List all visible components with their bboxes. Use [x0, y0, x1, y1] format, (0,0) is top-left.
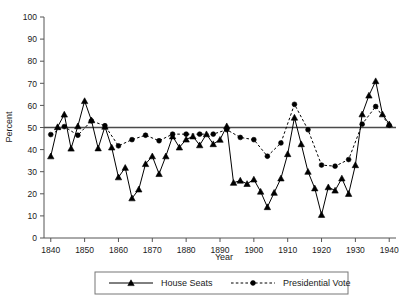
- chart-container: 0102030405060708090100 18401850186018701…: [0, 0, 403, 304]
- chart-plot-area: 0102030405060708090100 18401850186018701…: [0, 0, 403, 304]
- x-axis-tick-label: 1870: [143, 245, 162, 255]
- legend-item-label: House Seats: [161, 278, 213, 288]
- x-axis-tick-label: 1940: [380, 245, 399, 255]
- y-axis-title: Percent: [4, 111, 14, 143]
- x-axis-tick-label: 1840: [41, 245, 60, 255]
- data-point-marker-circle: [238, 135, 243, 140]
- y-axis-tick-label: 90: [28, 34, 38, 44]
- data-point-marker-circle: [170, 132, 175, 137]
- y-axis-tick-label: 60: [28, 101, 38, 111]
- data-point-marker-circle: [319, 163, 324, 168]
- x-axis-tick-label: 1930: [346, 245, 365, 255]
- y-axis-tick-label: 0: [32, 233, 37, 243]
- data-point-marker-circle: [89, 118, 94, 123]
- data-point-marker-circle: [143, 133, 148, 138]
- data-point-marker-circle: [387, 123, 392, 128]
- data-point-marker-circle: [279, 141, 284, 146]
- data-point-marker-circle: [62, 124, 67, 129]
- data-point-marker-circle: [292, 102, 297, 107]
- chart-legend: House SeatsPresidential Vote: [95, 272, 351, 294]
- data-point-marker-circle: [265, 154, 270, 159]
- y-axis-tick-label: 10: [28, 211, 38, 221]
- data-point-marker-circle: [333, 164, 338, 169]
- data-point-marker-circle: [211, 132, 216, 137]
- data-point-marker-circle: [373, 104, 378, 109]
- data-point-marker-circle: [130, 137, 135, 142]
- y-axis-tick-label: 50: [28, 123, 38, 133]
- data-point-marker-circle: [157, 138, 162, 143]
- data-point-marker-circle: [48, 132, 53, 137]
- x-axis-tick-label: 1910: [278, 245, 297, 255]
- x-axis-title: Year: [215, 252, 233, 262]
- y-axis-tick-label: 30: [28, 167, 38, 177]
- data-point-marker-circle: [346, 157, 351, 162]
- y-axis-tick-label: 40: [28, 145, 38, 155]
- data-point-marker-circle: [197, 132, 202, 137]
- data-point-marker-circle: [251, 281, 256, 286]
- legend-item-label: Presidential Vote: [283, 278, 351, 288]
- x-axis-tick-label: 1920: [312, 245, 331, 255]
- y-axis-tick-label: 80: [28, 56, 38, 66]
- x-axis-tick-label: 1900: [244, 245, 263, 255]
- y-axis-tick-label: 20: [28, 189, 38, 199]
- data-point-marker-circle: [103, 123, 108, 128]
- y-axis-tick-label: 100: [23, 12, 37, 22]
- x-axis-tick-label: 1850: [75, 245, 94, 255]
- data-point-marker-circle: [306, 127, 311, 132]
- data-point-marker-circle: [360, 122, 365, 127]
- x-axis-tick-label: 1880: [177, 245, 196, 255]
- data-point-marker-circle: [75, 133, 80, 138]
- data-point-marker-circle: [251, 137, 256, 142]
- x-axis-tick-label: 1860: [109, 245, 128, 255]
- data-point-marker-circle: [224, 127, 229, 132]
- data-point-marker-circle: [116, 143, 121, 148]
- data-point-marker-circle: [184, 132, 189, 137]
- y-axis-tick-label: 70: [28, 79, 38, 89]
- chart-background: [0, 0, 403, 304]
